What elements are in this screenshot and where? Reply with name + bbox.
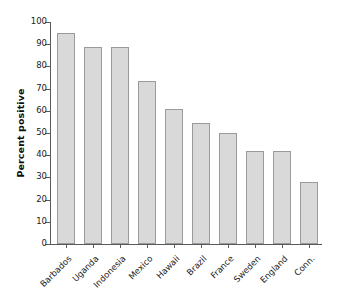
bar [111,47,129,244]
y-tick-label: 30 [36,171,47,182]
y-tick-label: 80 [36,60,47,71]
bar [246,151,264,244]
x-axis-line [50,244,322,245]
x-tick-label: Conn. [292,253,316,277]
x-tick-mark [93,244,94,248]
bar [57,33,75,244]
y-tick-label: 40 [36,149,47,160]
bar-chart: Percent positive 0102030405060708090100 … [0,0,338,298]
y-tick-label: 60 [36,105,47,116]
y-tick-label: 90 [36,38,47,49]
x-tick-label: Brazil [185,253,209,277]
y-tick-label: 100 [31,16,47,27]
plot-area: 0102030405060708090100 BarbadosUgandaInd… [50,22,321,244]
x-tick-mark [282,244,283,248]
x-tick-label: Barbados [38,253,73,288]
y-tick-label: 70 [36,83,47,94]
x-tick-label: England [258,253,289,284]
bar [219,133,237,244]
bar [300,182,318,244]
y-tick-label: 0 [42,238,47,249]
x-tick-mark [147,244,148,248]
y-axis-line [50,22,51,245]
x-tick-mark [174,244,175,248]
x-tick-mark [120,244,121,248]
y-tick-label: 20 [36,194,47,205]
x-tick-mark [66,244,67,248]
x-tick-mark [228,244,229,248]
bar [84,47,102,244]
x-tick-mark [309,244,310,248]
x-tick-label: Sweden [232,253,263,284]
x-tick-label: Mexico [126,253,154,281]
y-tick-label: 50 [36,127,47,138]
bar [192,123,210,244]
y-tick-label: 10 [36,216,47,227]
y-axis-title: Percent positive [14,22,28,244]
bar [138,81,156,244]
bar [273,151,291,244]
x-tick-mark [201,244,202,248]
x-tick-mark [255,244,256,248]
x-tick-label: Hawaii [154,253,181,280]
bar [165,109,183,244]
